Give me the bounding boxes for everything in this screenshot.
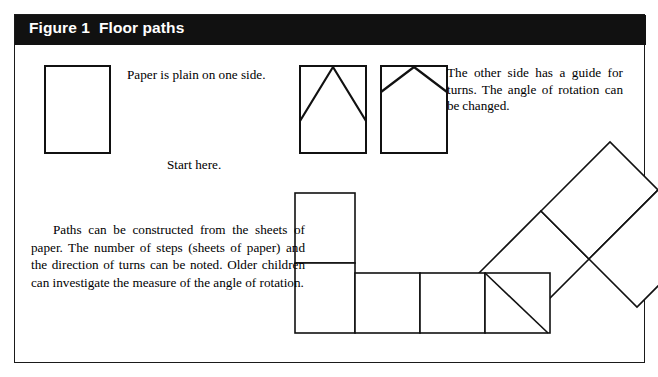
caption-start-here: Start here. — [167, 157, 327, 174]
figure-title: Figure 1 Floor paths — [29, 19, 184, 37]
path-sheet-3 — [355, 273, 420, 333]
caption-guide-side: The other side has a guide for turns. Th… — [447, 65, 623, 115]
figure-title-bar: Figure 1 Floor paths — [15, 15, 646, 45]
path-sheet-3b — [420, 273, 485, 333]
caption-paths-paragraph: Paths can be constructed from the sheets… — [31, 221, 305, 291]
caption-plain-side: Paper is plain on one side. — [127, 67, 327, 84]
figure-container: Figure 1 Floor paths — [14, 14, 645, 363]
figure-body: Paper is plain on one side. Start here. … — [15, 45, 646, 362]
